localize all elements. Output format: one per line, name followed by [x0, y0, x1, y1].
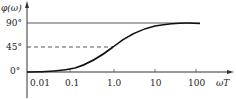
x-axis-arrow-icon [227, 70, 234, 74]
y-tick-0: 0° [10, 66, 20, 76]
phase-curve [27, 23, 200, 72]
y-axis-arrow-icon [25, 1, 29, 8]
y-tick-45: 45° [6, 42, 22, 52]
x-axis-label: ωT [216, 78, 230, 88]
phase-plot: φ(ω) 90° 45° 0° 0.01 0.1 1.0 10 100 ωT [0, 0, 236, 99]
x-tick-10: 10 [150, 78, 162, 88]
y-tick-90: 90° [6, 18, 22, 28]
x-tick-100: 100 [188, 78, 205, 88]
x-tick-0-1: 0.1 [65, 78, 79, 88]
x-tick-1-0: 1.0 [107, 78, 122, 88]
x-tick-0-01: 0.01 [30, 78, 50, 88]
y-axis-label: φ(ω) [1, 3, 22, 13]
